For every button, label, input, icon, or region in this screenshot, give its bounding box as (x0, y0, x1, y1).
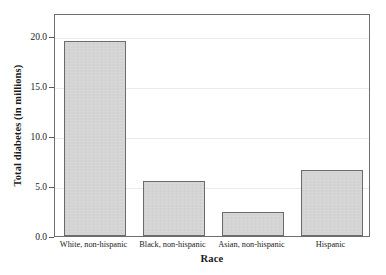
bar[interactable] (64, 41, 126, 236)
y-tick-label-wrap: 0.0 (0, 232, 47, 242)
y-tick-label: 10.0 (3, 132, 47, 142)
x-tick-label: White, non-hispanic (54, 239, 133, 250)
bar-texture (65, 42, 125, 235)
bar[interactable] (143, 181, 205, 236)
y-tick-label-wrap: 20.0 (0, 32, 47, 42)
y-tick-label-wrap: 10.0 (0, 132, 47, 142)
y-tick-mark (49, 237, 54, 238)
x-axis-title: Race (54, 253, 370, 264)
y-tick-label-wrap: 5.0 (0, 182, 47, 192)
bar[interactable] (301, 170, 363, 236)
bar-texture (144, 182, 204, 235)
y-tick-label: 5.0 (3, 182, 47, 192)
bar-texture (302, 171, 362, 235)
y-axis-title: Total diabetes (in millions) (10, 14, 26, 237)
x-tick-label: Black, non-hispanic (133, 239, 212, 250)
x-tick-label: Hispanic (291, 239, 370, 250)
bar[interactable] (222, 212, 284, 236)
x-tick-label: Asian, non-hispanic (212, 239, 291, 250)
gridline (55, 38, 369, 39)
plot-area (54, 14, 370, 237)
y-tick-label: 0.0 (3, 232, 47, 242)
y-tick-label: 15.0 (3, 82, 47, 92)
y-tick-label: 20.0 (3, 32, 47, 42)
y-tick-label-wrap: 15.0 (0, 82, 47, 92)
bar-texture (223, 213, 283, 235)
bar-chart: Total diabetes (in millions) 20.015.010.… (0, 0, 386, 275)
